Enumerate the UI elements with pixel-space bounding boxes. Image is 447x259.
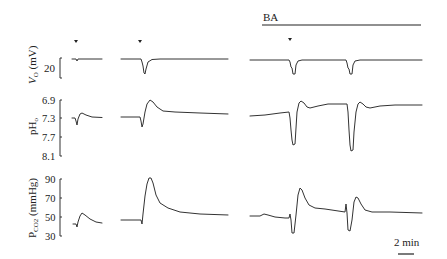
panel-pco2: PCO2 (mmHg) 90 70 50 30 (26, 174, 422, 242)
pco2-tick-90: 90 (45, 174, 56, 185)
pco2-axis (60, 179, 62, 236)
stimulus-arrowhead-1 (74, 40, 78, 43)
stimulus-arrowhead-2 (138, 40, 142, 43)
ph-trace-seg2 (121, 100, 228, 127)
panel-ph: pHo 6.9 7.3 7.7 8.1 (26, 95, 422, 162)
vo-scale-bracket (60, 58, 62, 78)
pco2-ylabel: PCO2 (mmHg) (26, 178, 40, 238)
stimulus-arrowhead-3 (288, 38, 292, 41)
ph-ylabel: pHo (26, 118, 40, 135)
vo-trace-seg3 (250, 60, 422, 74)
pco2-trace-seg3 (250, 188, 422, 233)
pco2-trace-seg1 (73, 213, 102, 227)
ph-tick-6.9: 6.9 (42, 95, 55, 106)
vo-trace-seg2 (121, 59, 228, 74)
figure: BA VO (mV) 20 pHo 6.9 7.3 7.7 8.1 (0, 0, 447, 259)
panel-vo: VO (mV) 20 (26, 45, 422, 84)
vo-scale-label: 20 (44, 62, 56, 74)
ph-trace-seg3 (250, 101, 422, 151)
ph-axis (60, 100, 62, 156)
pco2-tick-50: 50 (45, 212, 56, 223)
ph-trace-seg1 (72, 113, 102, 125)
ph-tick-8.1: 8.1 (42, 151, 55, 162)
pco2-trace-seg2 (121, 178, 228, 224)
ph-tick-7.3: 7.3 (42, 113, 55, 124)
vo-trace-seg1 (72, 59, 102, 61)
pco2-tick-30: 30 (45, 231, 56, 242)
vo-ylabel: VO (mV) (26, 45, 40, 84)
pco2-tick-70: 70 (45, 193, 56, 204)
time-scale-label: 2 min (394, 236, 420, 248)
ph-tick-7.7: 7.7 (42, 132, 55, 143)
treatment-label: BA (263, 11, 278, 23)
